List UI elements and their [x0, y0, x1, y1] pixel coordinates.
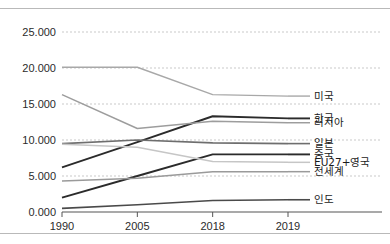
series-line-일본 [62, 140, 288, 144]
chart-legend: 미국한국러시아일본중국EU27+영국전세계인도 [288, 90, 370, 206]
y-axis-tick-label: 25.000 [22, 26, 56, 38]
y-axis-tick-label: 15.000 [22, 98, 56, 110]
x-axis-tick-labels: 1990200520182019 [50, 220, 300, 232]
series-group [62, 67, 288, 208]
series-line-러시아 [62, 95, 288, 129]
series-line-미국 [62, 67, 288, 96]
y-axis-tick-label: 20.000 [22, 62, 56, 74]
x-axis-tick-label: 2019 [276, 220, 300, 232]
legend-label-전세계: 전세계 [314, 165, 344, 177]
y-axis-tick-label: 0.000 [28, 206, 56, 218]
series-line-EU27+영국 [62, 144, 288, 162]
series-line-인도 [62, 200, 288, 209]
legend-label-러시아: 러시아 [314, 116, 344, 128]
y-axis-tick-label: 10.000 [22, 134, 56, 146]
legend-label-인도: 인도 [314, 193, 334, 205]
x-axis-tick-label: 2005 [125, 220, 149, 232]
x-axis-tick-marks [62, 212, 288, 217]
x-axis-tick-label: 2018 [200, 220, 224, 232]
y-axis-tick-labels: 0.0005.00010.00015.00020.00025.000 [22, 26, 56, 218]
line-chart-plot: 0.0005.00010.00015.00020.00025.000 19902… [0, 0, 390, 244]
legend-label-미국: 미국 [314, 90, 334, 102]
x-axis-tick-label: 1990 [50, 220, 74, 232]
chart-figure: 0.0005.00010.00015.00020.00025.000 19902… [0, 0, 390, 244]
y-axis-tick-label: 5.000 [28, 170, 56, 182]
